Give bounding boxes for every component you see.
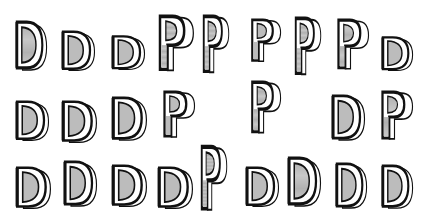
letter-glyph-icon — [248, 80, 282, 136]
letter-glyph-icon — [110, 164, 148, 208]
letter-glyph-icon — [244, 166, 280, 208]
letter-glyph-icon — [198, 144, 228, 214]
letter-glyph-icon — [60, 30, 96, 72]
letter-glyph-icon — [334, 18, 370, 72]
letter-glyph-icon — [200, 14, 230, 76]
letter-glyph-icon — [380, 36, 414, 72]
letter-glyph-icon — [292, 16, 322, 78]
letter-glyph-icon — [14, 166, 52, 210]
letter-glyph-icon — [110, 96, 148, 142]
letter-glyph-icon — [155, 14, 195, 74]
letter-glyph-icon — [156, 166, 194, 210]
letter-glyph-icon — [14, 100, 50, 142]
letter-glyph-icon — [330, 94, 366, 142]
letter-glyph-icon — [160, 90, 196, 140]
letter-glyph-icon — [110, 35, 146, 71]
letter-glyph-icon — [60, 100, 98, 144]
letter-glyph-icon — [62, 160, 98, 208]
letter-glyph-icon — [14, 20, 48, 72]
letter-glyph-icon — [286, 156, 322, 208]
letter-glyph-icon — [380, 164, 414, 210]
letter-glyph-icon — [334, 162, 368, 210]
letter-glyph-icon — [248, 18, 282, 64]
letter-glyph-icon — [378, 90, 414, 142]
